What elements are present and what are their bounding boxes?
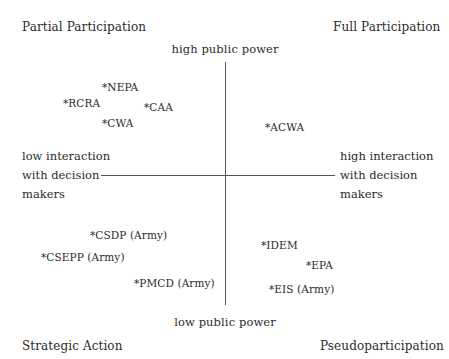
horizontal-axis-line [101, 175, 335, 176]
axis-label-high-interaction-line-3: makers [340, 185, 433, 204]
axis-label-low-interaction-line-3: makers [22, 185, 110, 204]
axis-label-low-public-power: low public power [174, 315, 276, 329]
item-nepa: *NEPA [102, 80, 138, 94]
axis-label-high-interaction-line-2: with decision [340, 166, 433, 185]
quadrant-title-strategic-action: Strategic Action [22, 339, 123, 353]
vertical-axis-line [225, 62, 226, 305]
item-eis-army: *EIS (Army) [269, 282, 334, 296]
quadrant-title-partial-participation: Partial Participation [22, 20, 146, 34]
item-rcra: *RCRA [63, 96, 100, 110]
axis-label-low-interaction-line-1: low interaction [22, 147, 110, 166]
axis-label-low-interaction-line-2: with decision [22, 166, 110, 185]
axis-label-high-public-power: high public power [171, 42, 278, 56]
axis-label-low-interaction: low interaction with decision makers [22, 147, 110, 204]
item-csepp-army: *CSEPP (Army) [41, 250, 125, 264]
item-csdp-army: *CSDP (Army) [90, 228, 167, 242]
item-pmcd-army: *PMCD (Army) [134, 276, 215, 290]
item-epa: *EPA [306, 258, 333, 272]
item-acwa: *ACWA [265, 120, 304, 134]
axis-label-high-interaction: high interaction with decision makers [340, 147, 433, 204]
quadrant-title-pseudoparticipation: Pseudoparticipation [320, 339, 444, 353]
quadrant-title-full-participation: Full Participation [333, 20, 440, 34]
item-caa: *CAA [144, 100, 173, 114]
axis-label-high-interaction-line-1: high interaction [340, 147, 433, 166]
item-idem: *IDEM [261, 238, 298, 252]
item-cwa: *CWA [102, 116, 134, 130]
